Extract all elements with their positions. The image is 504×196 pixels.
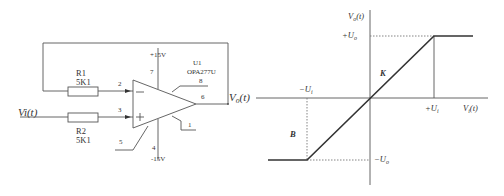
resistor-r2 [68,113,98,122]
r2-value: 5K1 [76,136,91,145]
pin-6: 6 [201,94,205,101]
supply-pos-label: +15V [150,52,166,59]
resistor-r1 [68,87,98,96]
opamp-part: OPA277U [187,69,216,76]
x-axis-label: Vi(t) [463,104,478,115]
neg-uo-label: −Uo [374,155,389,166]
transfer-characteristic-graph [256,10,488,185]
offset-label: B [290,130,296,139]
pin2-arrow-icon [125,89,131,93]
neg-ui-label: −Ui [299,85,313,96]
r1-value: 5K1 [76,78,91,87]
pin-1: 1 [188,122,192,129]
pin-5: 5 [119,139,123,146]
y-axis-label: Vo(t) [348,12,364,23]
input-label: Vi(t) [18,107,37,118]
slope-label: K [380,69,386,78]
pin3-arrow-icon [125,115,131,119]
supply-neg-label: -15V [151,156,165,163]
output-label: Vo(t) [229,92,250,105]
pos-uo-label: +Uo [342,31,357,42]
pin-4: 4 [152,145,156,152]
diagram-canvas [0,0,504,196]
opamp-triangle [133,80,196,128]
opamp-ref: U1 [193,60,202,67]
pin-3: 3 [118,107,122,114]
pin-7: 7 [150,69,154,76]
pin-8: 8 [199,78,203,85]
pin-2: 2 [118,81,122,88]
pos-ui-label: +Ui [425,104,439,115]
